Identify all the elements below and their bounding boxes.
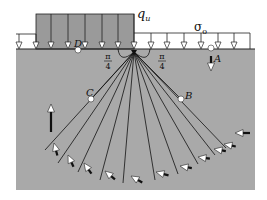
surcharge-load-arrow: [148, 33, 154, 49]
footing-load-label: qu: [137, 6, 150, 23]
surcharge-label: σo: [194, 20, 207, 36]
point-b-label: B: [184, 90, 192, 101]
angle-right-denominator: 4: [159, 62, 164, 71]
surcharge-load-arrow: [164, 33, 170, 49]
point-a-marker: [208, 45, 214, 51]
surcharge-load-arrow: [215, 33, 221, 49]
angle-left-denominator: 4: [105, 62, 110, 71]
point-c-label: C: [86, 87, 94, 98]
point-b-marker: [178, 96, 184, 102]
angle-left-numerator: π: [105, 52, 110, 61]
surcharge-load-arrow: [231, 33, 237, 49]
point-a-label: A: [213, 53, 221, 64]
surcharge-load-arrow: [16, 34, 22, 49]
point-d-label: D: [73, 38, 82, 49]
bearing-capacity-diagram: qu σo π 4 π 4 D A C B: [0, 0, 267, 200]
surcharge-load-arrow: [181, 33, 187, 49]
angle-right-numerator: π: [159, 52, 164, 61]
